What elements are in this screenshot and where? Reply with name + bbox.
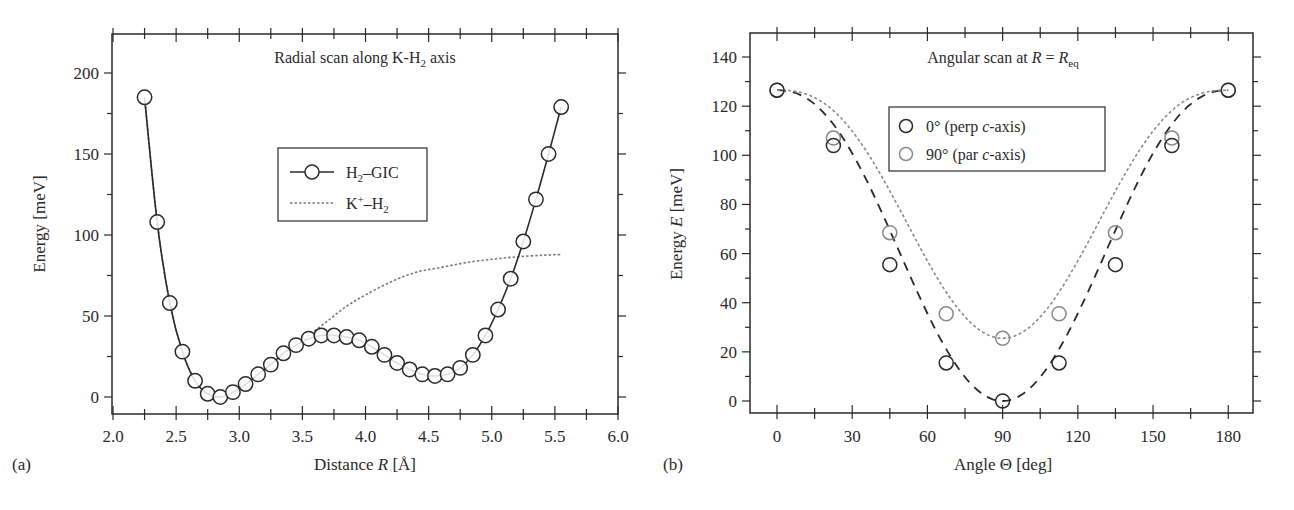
panel-b-ticks: 0306090120150180020406080100120140: [712, 27, 1262, 446]
x-tick-label: 2.5: [166, 427, 187, 446]
y-tick-label: 200: [74, 64, 100, 83]
x-tick-label: 0: [773, 427, 782, 446]
y-tick-label: 20: [720, 343, 737, 362]
panel-b-legend: 0° (perp c-axis) 90° (par c-axis): [889, 107, 1105, 171]
x-tick-label: 3.5: [292, 427, 313, 446]
h2-gic-marker: [137, 90, 151, 104]
h2-gic-marker: [251, 367, 265, 381]
marker-0deg: [883, 258, 897, 272]
x-tick-label: 5.5: [544, 427, 565, 446]
marker-90deg: [939, 307, 953, 321]
x-tick-label: 2.0: [102, 427, 123, 446]
panel-a-curves: [137, 90, 568, 404]
x-tick-label: 180: [1216, 427, 1242, 446]
x-tick-label: 90: [994, 427, 1011, 446]
panel-a-title: Radial scan along K-H2 axis: [274, 49, 455, 69]
y-tick-label: 80: [720, 195, 737, 214]
h2-gic-marker: [516, 234, 530, 248]
legend-circle-marker: [305, 165, 319, 179]
panel-a-ticks: 2.02.53.03.54.04.55.05.56.0050100150200: [74, 28, 629, 446]
k-h2-curve: [145, 97, 562, 397]
x-tick-label: 4.5: [418, 427, 439, 446]
figure: 2.02.53.03.54.04.55.05.56.0050100150200 …: [0, 0, 1294, 510]
h2-gic-marker: [264, 357, 278, 371]
h2-gic-marker: [503, 272, 517, 286]
legend-label-90deg: 90° (par c-axis): [926, 146, 1026, 164]
h2-gic-marker: [491, 302, 505, 316]
h2-gic-marker: [466, 348, 480, 362]
h2-gic-marker: [453, 361, 467, 375]
h2-gic-marker: [541, 147, 555, 161]
h2-gic-marker: [150, 215, 164, 229]
x-tick-label: 5.0: [481, 427, 502, 446]
h2-gic-marker: [238, 377, 252, 391]
y-tick-label: 150: [74, 145, 100, 164]
panel-a-xlabel: Distance R [Å]: [314, 455, 416, 474]
panel-a-ylabel: Energy [meV]: [30, 175, 49, 272]
panel-b-frame: [750, 33, 1253, 413]
h2-gic-marker: [554, 100, 568, 114]
x-tick-label: 3.0: [229, 427, 250, 446]
panel-b-label: (b): [663, 455, 683, 474]
y-tick-label: 120: [712, 97, 738, 116]
panel-a-radial-scan: 2.02.53.03.54.04.55.05.56.0050100150200 …: [12, 28, 629, 474]
y-tick-label: 0: [91, 388, 100, 407]
panel-b-angular-scan: 0306090120150180020406080100120140 Angul…: [663, 27, 1261, 474]
h2-gic-marker: [377, 348, 391, 362]
x-tick-label: 60: [919, 427, 936, 446]
x-tick-label: 4.0: [355, 427, 376, 446]
panel-a-legend: H2–GIC K+–H2: [278, 148, 427, 221]
h2-gic-marker: [478, 328, 492, 342]
legend-label-k-h2: K+–H2: [346, 193, 389, 215]
y-tick-label: 100: [74, 226, 100, 245]
marker-0deg: [939, 356, 953, 370]
marker-90deg: [883, 226, 897, 240]
h2-gic-marker: [226, 385, 240, 399]
h2-gic-marker: [276, 346, 290, 360]
h2-gic-marker: [529, 192, 543, 206]
marker-90deg: [1108, 226, 1122, 240]
h2-gic-marker: [175, 344, 189, 358]
x-tick-label: 6.0: [607, 427, 628, 446]
y-tick-label: 40: [720, 294, 737, 313]
panel-b-title: Angular scan at R = Req: [927, 49, 1079, 69]
legend-label-0deg: 0° (perp c-axis): [926, 118, 1026, 136]
marker-0deg: [1108, 258, 1122, 272]
x-tick-label: 120: [1065, 427, 1091, 446]
panel-b-xlabel: Angle Θ [deg]: [954, 455, 1052, 474]
y-tick-label: 50: [82, 307, 99, 326]
y-tick-label: 140: [712, 48, 738, 67]
x-tick-label: 30: [844, 427, 861, 446]
y-tick-label: 0: [729, 392, 738, 411]
y-tick-label: 60: [720, 245, 737, 264]
marker-90deg: [1052, 307, 1066, 321]
x-tick-label: 150: [1140, 427, 1166, 446]
panel-a-label: (a): [12, 455, 31, 474]
h2-gic-marker: [365, 340, 379, 354]
marker-0deg: [1052, 356, 1066, 370]
panel-b-ylabel: Energy E [meV]: [667, 168, 686, 280]
y-tick-label: 100: [712, 146, 738, 165]
h2-gic-marker: [188, 374, 202, 388]
h2-gic-curve: [145, 97, 562, 397]
h2-gic-marker: [163, 296, 177, 310]
